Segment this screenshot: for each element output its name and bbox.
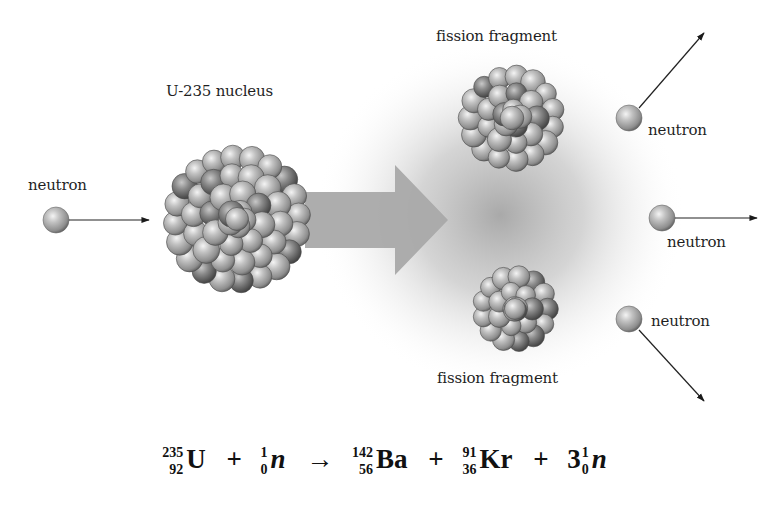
krypton-atomic-number: 36 [462,461,476,478]
outgoing-neutron-2 [649,205,675,231]
fission-equation: 23592U + 10n → 14256Ba + 9136Kr + 310n [0,444,771,479]
neutron-out-symbol: n [592,444,607,474]
fission-fragment-bottom-label: fission fragment [437,369,558,387]
barium-symbol: Ba [376,444,408,474]
plus-sign: + [226,444,241,474]
outgoing-neutron-1-label: neutron [648,121,707,139]
krypton-symbol: Kr [479,444,512,474]
outgoing-neutron-3-label: neutron [651,312,710,330]
neutron-out-atomic-number: 0 [582,461,589,478]
incoming-neutron [43,207,69,233]
equation-uranium: 23592U [162,444,206,479]
neutron-atomic-number: 0 [261,461,268,478]
equation-krypton: 9136Kr [462,444,512,479]
incoming-neutron-label: neutron [28,176,87,194]
outgoing-neutron-3-arrow [639,330,704,401]
equation-neutrons-out: 310n [567,444,607,479]
outgoing-neutron-3 [616,306,642,332]
equation-barium: 14256Ba [352,444,408,479]
nucleon-sphere [226,208,249,231]
nucleon-sphere [505,299,526,320]
neutron-out-mass-number: 1 [582,444,589,461]
nucleus-label: U-235 nucleus [166,82,273,100]
u235-nucleus [164,145,311,293]
nucleon-sphere [500,106,524,130]
barium-atomic-number: 56 [359,461,373,478]
fission-fragment-top-label: fission fragment [436,27,557,45]
uranium-symbol: U [186,444,206,474]
neutron-coefficient: 3 [567,444,581,474]
uranium-mass-number: 235 [162,444,183,461]
outgoing-neutron-1 [616,105,642,131]
krypton-mass-number: 91 [462,444,476,461]
outgoing-neutron-1-arrow [639,33,704,108]
neutron-mass-number: 1 [261,444,268,461]
neutron-symbol: n [271,444,286,474]
reaction-arrow: → [306,444,333,474]
plus-sign: + [428,444,443,474]
equation-neutron-in: 10n [261,444,286,479]
uranium-atomic-number: 92 [169,461,183,478]
barium-mass-number: 142 [352,444,373,461]
plus-sign: + [533,444,548,474]
outgoing-neutron-2-label: neutron [667,233,726,251]
